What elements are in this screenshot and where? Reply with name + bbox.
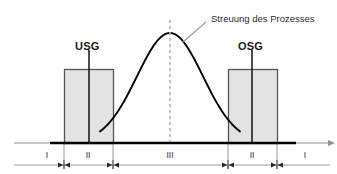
callout-leader-line <box>183 22 206 42</box>
zone-arrow-left-0 <box>58 162 63 167</box>
zone-label-3: II <box>238 151 266 160</box>
zone-arrow-left-2 <box>222 162 227 167</box>
zone-arrow-right-3 <box>278 162 283 167</box>
spec-limit-boxes <box>65 70 278 144</box>
spec-box-osg <box>229 70 278 144</box>
zone-arrow-right-1 <box>114 162 119 167</box>
upper-spec-limit-label: OSG <box>238 41 263 52</box>
process-spread-label: Streuung des Prozesses <box>211 14 315 24</box>
zone-label-4: I <box>291 151 319 160</box>
zone-label-1: II <box>74 151 102 160</box>
zone-arrow-left-3 <box>271 162 276 167</box>
zone-label-0: I <box>33 151 61 160</box>
zone-arrow-left-1 <box>107 162 112 167</box>
baseline-arrow-icon <box>328 140 335 146</box>
zone-arrow-right-0 <box>65 162 70 167</box>
diagram-canvas <box>0 0 337 174</box>
zone-arrow-right-2 <box>229 162 234 167</box>
lower-spec-limit-label: USG <box>75 41 99 52</box>
process-capability-diagram: USG OSG Streuung des Prozesses IIIIIIIII <box>0 0 337 174</box>
zone-label-2: III <box>156 151 184 160</box>
